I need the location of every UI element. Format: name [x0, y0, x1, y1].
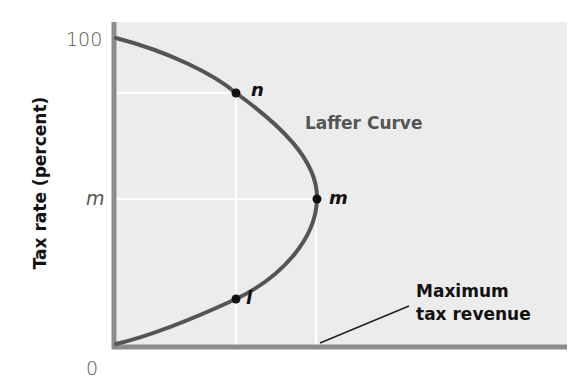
point-n-label: n — [251, 79, 264, 100]
origin-tick-0: 0 — [86, 357, 98, 379]
y-tick-100: 100 — [66, 28, 102, 50]
point-l — [232, 295, 241, 304]
annotation-line-2: tax revenue — [416, 303, 531, 326]
curve-label: Laffer Curve — [305, 113, 422, 133]
point-n — [232, 89, 241, 98]
y-axis-label: Tax rate (percent) — [30, 97, 50, 270]
y-tick-m: m — [86, 187, 105, 209]
point-m-label: m — [329, 187, 348, 208]
annotation-line-1: Maximum — [416, 280, 531, 303]
point-m — [313, 195, 322, 204]
max-revenue-annotation: Maximum tax revenue — [416, 280, 531, 326]
point-l-label: l — [246, 287, 252, 308]
